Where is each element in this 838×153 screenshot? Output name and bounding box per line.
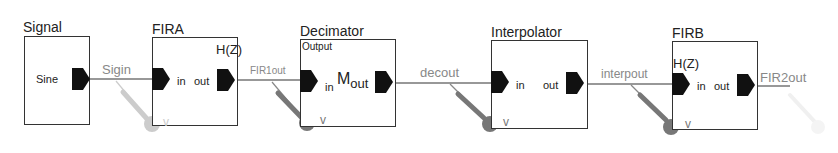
probe-label-fir1out: v: [320, 113, 326, 127]
interpolator-in-port-icon[interactable]: [491, 71, 509, 93]
wire-label-sigin: Sigin: [102, 62, 131, 77]
fira-function-label: H(Z): [216, 42, 242, 57]
probe-label-sigin: v: [163, 115, 169, 129]
fira-out-port-icon[interactable]: [217, 69, 235, 91]
wire-label-decout: decout: [420, 65, 459, 80]
firb-title: FIRB: [672, 25, 704, 41]
interpolator-port-in-label: in: [516, 79, 525, 91]
interpolator-port-out-label: out: [543, 79, 558, 91]
wire-label-interpout: interpout: [601, 67, 648, 81]
decimator-title: Decimator: [300, 23, 364, 39]
decimator-subtitle: Output: [302, 41, 332, 52]
firb-function-label: H(Z): [673, 56, 699, 71]
probe-label-interpout: v: [685, 117, 691, 131]
fira-title: FIRA: [152, 21, 184, 37]
probe-label-decout: v: [503, 115, 509, 129]
interpolator-title: Interpolator: [491, 24, 562, 40]
signal-flow-diagram: Signal Sine FIRA H(Z) in out Decimator O…: [0, 0, 838, 153]
fira-in-port-icon[interactable]: [152, 68, 170, 90]
wire-label-fir1out: FIR1out: [250, 65, 286, 76]
probe-fir2out[interactable]: [790, 95, 825, 134]
firb-in-port-icon[interactable]: [672, 73, 690, 95]
decimator-symbol-sub: out: [350, 76, 368, 91]
fira-port-in-label: in: [177, 75, 186, 87]
interpolator-out-port-icon[interactable]: [566, 72, 584, 94]
decimator-symbol: Mout: [337, 70, 368, 91]
decimator-port-in-label: in: [325, 81, 334, 93]
wire-label-fir2out: FIR2out: [760, 70, 806, 85]
signal-title: Signal: [23, 19, 62, 35]
decimator-symbol-main: M: [337, 70, 350, 87]
fira-port-out-label: out: [194, 75, 209, 87]
decimator-in-port-icon[interactable]: [300, 70, 318, 92]
signal-port-out-label: Sine: [36, 73, 58, 85]
firb-port-in-label: in: [697, 80, 706, 92]
decimator-out-port-icon[interactable]: [375, 71, 393, 93]
signal-out-port-icon[interactable]: [72, 68, 90, 90]
firb-port-out-label: out: [714, 80, 729, 92]
firb-out-port-icon[interactable]: [737, 74, 755, 96]
